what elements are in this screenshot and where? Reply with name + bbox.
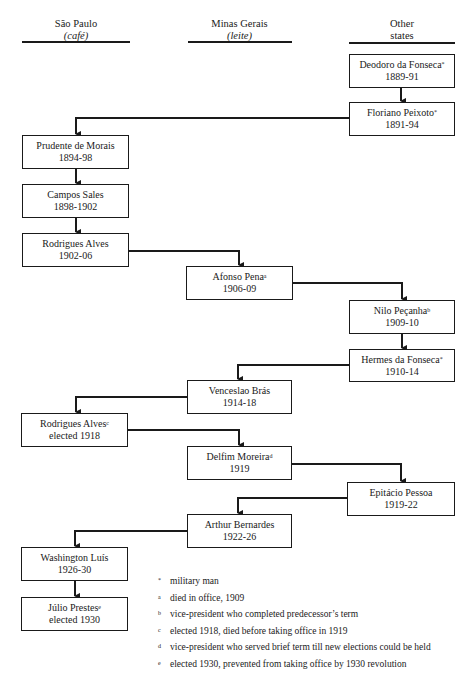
- legend-item: eelected 1930, prevented from taking off…: [158, 656, 431, 673]
- footnote-legend: *military man adied in office, 1909 bvic…: [158, 573, 431, 672]
- legend-item: *military man: [158, 573, 431, 590]
- president-name: Júlio Prestese: [48, 602, 101, 614]
- president-term: elected 1930: [49, 614, 100, 626]
- president-term: 1922-26: [223, 531, 256, 543]
- president-name: Hermes da Fonseca*: [361, 354, 442, 366]
- footnote-text: military man: [170, 576, 219, 586]
- footnote-mark: b: [158, 605, 170, 622]
- president-name: Arthur Bernardes: [205, 519, 275, 531]
- footnote-text: vice-president who served brief term til…: [170, 642, 431, 652]
- president-box-floriano-peixoto: Floriano Peixoto* 1891-94: [349, 102, 455, 136]
- legend-item: dvice-president who served brief term ti…: [158, 639, 431, 656]
- president-term: 1919: [230, 463, 250, 475]
- footnote-mark: c: [158, 622, 170, 639]
- president-box-rodrigues-alves: Rodrigues Alves 1902-06: [22, 233, 129, 267]
- president-name: Nilo Peçanhab: [374, 305, 431, 317]
- president-box-nilo-pecanha: Nilo Peçanhab 1909-10: [349, 300, 455, 334]
- footnote-text: died in office, 1909: [170, 593, 244, 603]
- president-box-prudente-de-morais: Prudente de Morais 1894-98: [22, 135, 129, 169]
- footnote-mark: a: [158, 589, 170, 606]
- president-name: Washington Luís: [41, 552, 109, 564]
- president-term: 1919-22: [384, 499, 417, 511]
- legend-item: celected 1918, died before taking office…: [158, 623, 431, 640]
- president-term: 1902-06: [59, 250, 92, 262]
- president-term: 1898-1902: [54, 201, 97, 213]
- president-term: 1914-18: [223, 397, 256, 409]
- footnote-text: vice-president who completed predecessor…: [170, 609, 358, 619]
- president-term: 1926-30: [58, 564, 91, 576]
- president-box-rodrigues-alves-1918: Rodrigues Alvesc elected 1918: [21, 413, 128, 447]
- president-box-delfim-moreira: Delfim Moreirad 1919: [187, 446, 292, 480]
- president-box-deodoro-da-fonseca: Deodoro da Fonseca* 1889-91: [349, 54, 455, 88]
- footnote-mark: e: [158, 655, 170, 672]
- president-term: 1910-14: [385, 366, 418, 378]
- legend-item: adied in office, 1909: [158, 590, 431, 607]
- president-box-arthur-bernardes: Arthur Bernardes 1922-26: [187, 514, 292, 548]
- president-name: Rodrigues Alves: [42, 238, 108, 250]
- president-name: Prudente de Morais: [36, 140, 114, 152]
- president-name: Floriano Peixoto*: [367, 107, 437, 119]
- president-term: 1891-94: [385, 119, 418, 131]
- president-box-campos-sales: Campos Sales 1898-1902: [22, 184, 129, 218]
- president-name: Rodrigues Alvesc: [40, 418, 109, 430]
- president-term: 1894-98: [59, 152, 92, 164]
- president-name: Delfim Moreirad: [206, 451, 272, 463]
- footnote-mark: *: [158, 572, 170, 589]
- president-name: Campos Sales: [47, 189, 103, 201]
- legend-item: bvice-president who completed predecesso…: [158, 606, 431, 623]
- footnote-text: elected 1918, died before taking office …: [170, 626, 348, 636]
- president-box-julio-prestes: Júlio Prestese elected 1930: [21, 597, 128, 631]
- president-name: Afonso Penaa: [212, 271, 266, 283]
- president-name: Epitácio Pessoa: [369, 487, 432, 499]
- president-term: 1909-10: [385, 317, 418, 329]
- president-box-hermes-da-fonseca: Hermes da Fonseca* 1910-14: [349, 349, 455, 382]
- president-name: Venceslao Brás: [209, 385, 270, 397]
- president-term: 1906-09: [223, 283, 256, 295]
- footnote-mark: d: [158, 638, 170, 655]
- president-box-epitacio-pessoa: Epitácio Pessoa 1919-22: [347, 482, 455, 516]
- president-term: elected 1918: [49, 430, 100, 442]
- president-name: Deodoro da Fonseca*: [359, 59, 444, 71]
- president-box-venceslao-bras: Venceslao Brás 1914-18: [187, 380, 292, 414]
- footnote-text: elected 1930, prevented from taking offi…: [170, 659, 406, 669]
- president-term: 1889-91: [385, 71, 418, 83]
- president-box-afonso-pena: Afonso Penaa 1906-09: [186, 266, 293, 300]
- president-box-washington-luis: Washington Luís 1926-30: [21, 547, 128, 581]
